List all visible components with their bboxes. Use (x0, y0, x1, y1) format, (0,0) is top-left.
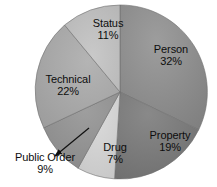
pie-label-property-name: Property (137, 130, 203, 142)
pie-chart: Status 11% Person 32% Technical 22% Prop… (0, 0, 217, 187)
pie-label-property: Property 19% (137, 130, 203, 153)
pie-label-public-order-value: 9% (2, 164, 88, 176)
pie-label-person: Person 32% (140, 44, 202, 67)
pie-label-drug: Drug 7% (92, 142, 138, 165)
pie-label-technical-name: Technical (30, 74, 106, 86)
pie-label-drug-value: 7% (92, 154, 138, 166)
pie-label-public-order: Public Order 9% (2, 152, 88, 175)
pie-label-status-value: 11% (78, 30, 138, 42)
pie-label-technical: Technical 22% (30, 74, 106, 97)
pie-label-person-name: Person (140, 44, 202, 56)
pie-label-drug-name: Drug (92, 142, 138, 154)
pie-label-status: Status 11% (78, 18, 138, 41)
pie-label-property-value: 19% (137, 142, 203, 154)
pie-label-public-order-name: Public Order (2, 152, 88, 164)
pie-label-person-value: 32% (140, 56, 202, 68)
pie-label-status-name: Status (78, 18, 138, 30)
pie-label-technical-value: 22% (30, 86, 106, 98)
